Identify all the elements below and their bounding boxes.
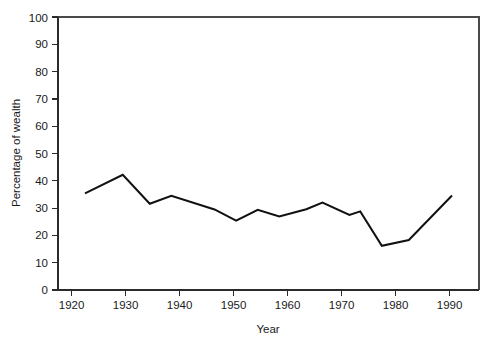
x-tick-label: 1950 [221,299,247,311]
x-tick-label: 1920 [59,299,85,311]
x-tick-label: 1990 [437,299,463,311]
x-axis-title: Year [256,323,279,335]
x-tick-label: 1970 [329,299,355,311]
y-tick-label: 20 [35,229,48,241]
y-tick-label: 70 [35,93,48,105]
y-tick-label: 10 [35,257,48,269]
x-tick-label: 1930 [113,299,139,311]
y-tick-label: 50 [35,148,48,160]
y-axis-tick-labels: 0 10 20 30 40 50 60 70 80 90 100 [29,12,48,297]
x-tick-label: 1980 [383,299,409,311]
y-axis-title: Percentage of wealth [10,99,22,207]
x-axis-ticks [72,290,450,296]
x-axis-tick-labels: 1920 1930 1940 1950 1960 1970 1980 1990 [59,299,463,311]
plot-area-background [58,17,479,290]
y-tick-label: 0 [42,284,48,296]
y-tick-label: 60 [35,120,48,132]
y-tick-label: 90 [35,38,48,50]
y-tick-label: 80 [35,66,48,78]
x-tick-label: 1960 [275,299,301,311]
y-axis-ticks [52,17,58,290]
chart-figure: 0 10 20 30 40 50 60 70 80 90 100 1920 19 [0,0,497,344]
line-chart: 0 10 20 30 40 50 60 70 80 90 100 1920 19 [0,0,497,344]
y-tick-label: 30 [35,202,48,214]
y-tick-label: 100 [29,12,48,24]
y-tick-label: 40 [35,175,48,187]
x-tick-label: 1940 [167,299,193,311]
